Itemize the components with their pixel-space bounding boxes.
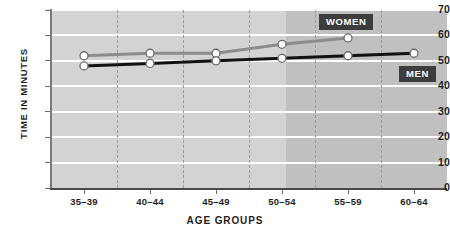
- y-tick-mark: [45, 60, 50, 61]
- y-tick-mark: [45, 35, 50, 36]
- x-tick-label: 55–59: [318, 196, 378, 207]
- y-axis-line: [50, 9, 52, 189]
- x-tick-mark: [84, 190, 85, 194]
- y-tick-label: 70: [410, 3, 450, 15]
- y-tick-mark: [45, 162, 50, 163]
- x-tick-mark: [414, 190, 415, 194]
- legend-badge-women: WOMEN: [319, 14, 373, 30]
- x-tick-label: 60–64: [384, 196, 444, 207]
- x-axis-line: [50, 188, 447, 190]
- gridline-v-5: [381, 10, 382, 188]
- plot-area: [51, 10, 447, 188]
- x-tick-label: 45–49: [186, 196, 246, 207]
- y-tick-mark: [45, 188, 50, 189]
- y-tick-label: 60: [410, 28, 450, 40]
- line-chart: 010203040506070 35–3940–4445–4950–5455–5…: [0, 0, 450, 235]
- y-tick-mark: [45, 137, 50, 138]
- y-tick-label: 10: [410, 156, 450, 168]
- x-axis-title: AGE GROUPS: [0, 215, 450, 226]
- y-tick-mark: [45, 10, 50, 11]
- x-tick-label: 40–44: [120, 196, 180, 207]
- x-tick-label: 35–39: [54, 196, 114, 207]
- legend-badge-men: MEN: [399, 66, 436, 82]
- gridline-v-2: [183, 10, 184, 188]
- y-axis-title: TIME IN MINUTES: [18, 34, 29, 154]
- x-tick-mark: [282, 190, 283, 194]
- x-tick-label: 50–54: [252, 196, 312, 207]
- y-tick-label: 50: [410, 54, 450, 66]
- x-tick-mark: [150, 190, 151, 194]
- y-tick-mark: [45, 86, 50, 87]
- y-tick-label: 30: [410, 105, 450, 117]
- x-tick-mark: [216, 190, 217, 194]
- y-tick-label: 0: [410, 181, 450, 193]
- gridline-v-3: [249, 10, 250, 188]
- x-tick-mark: [348, 190, 349, 194]
- y-tick-label: 20: [410, 130, 450, 142]
- gridline-v-4: [315, 10, 316, 188]
- gridline-v-1: [117, 10, 118, 188]
- y-tick-mark: [45, 111, 50, 112]
